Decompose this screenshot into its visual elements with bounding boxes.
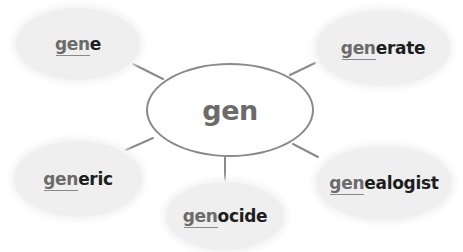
center-word: gen [202, 95, 257, 126]
node-gene: gene [16, 8, 140, 80]
connector-gene [133, 64, 163, 79]
node-generic: generic [14, 141, 142, 217]
node-word: gene [55, 34, 101, 54]
word-root: gen [329, 173, 364, 193]
connector-genealogist [293, 144, 318, 157]
word-suffix: ocide [218, 206, 268, 226]
node-genealogist: genealogist [316, 146, 452, 220]
word-suffix: erate [376, 38, 426, 58]
word-root: gen [183, 206, 218, 226]
word-suffix: ealogist [364, 173, 438, 193]
node-word: genocide [183, 206, 268, 226]
connector-generic [126, 138, 153, 150]
word-root: gen [341, 38, 376, 58]
word-suffix: eric [78, 169, 113, 189]
node-word: generate [341, 38, 425, 58]
node-genocide: genocide [166, 182, 284, 250]
word-root: gen [43, 169, 78, 189]
word-suffix: e [90, 34, 101, 54]
node-word: generic [43, 169, 113, 189]
connector-generate [290, 63, 315, 75]
node-generate: generate [316, 10, 450, 86]
node-word: genealogist [329, 173, 438, 193]
word-root: gen [55, 34, 90, 54]
center-node: gen [146, 63, 314, 157]
